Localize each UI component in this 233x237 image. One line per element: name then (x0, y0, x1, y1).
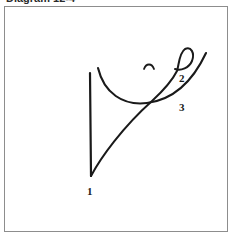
diagram-label-2: 2 (179, 73, 185, 84)
diagram-label-3: 3 (179, 102, 185, 113)
vertical-line-stroke (90, 73, 91, 176)
figure-frame: 1 2 3 (4, 6, 228, 232)
diagonal-with-loop-stroke (91, 48, 193, 176)
u-curve-stroke (98, 53, 206, 103)
diagram-label-1: 1 (87, 186, 93, 197)
figure-caption-text: Diagram 12-4 (6, 0, 75, 4)
small-arc-mark-stroke (144, 65, 154, 70)
diagram-drawing (5, 7, 229, 233)
